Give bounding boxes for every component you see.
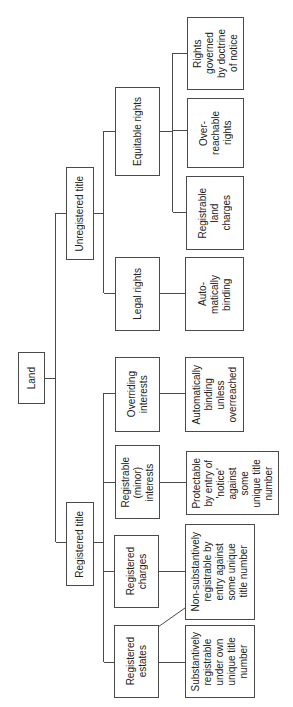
node-label: Unregistered title bbox=[74, 176, 86, 252]
node-land: Land bbox=[18, 352, 45, 404]
node-label: Substantively registrable under own uniq… bbox=[190, 632, 250, 691]
node-label: Overriding interests bbox=[126, 371, 150, 417]
node-label: Legal rights bbox=[132, 268, 144, 320]
node-equitable-rights: Equitable rights bbox=[115, 87, 160, 176]
node-automatically-binding: Auto- matically binding bbox=[185, 257, 244, 331]
node-protectable-by-notice: Protectable by entry of 'notice' against… bbox=[186, 451, 279, 515]
node-overriding-interests: Overriding interests bbox=[115, 357, 160, 432]
node-label: Automatically binding unless overreached bbox=[191, 365, 239, 424]
node-label: Equitable rights bbox=[132, 97, 144, 166]
node-label: Registered title bbox=[74, 511, 86, 578]
node-registrable-minor-interests: Registrable (minor) interests bbox=[115, 445, 160, 519]
node-label: Registered charges bbox=[125, 547, 149, 595]
node-doctrine-of-notice: Rights governed by doctrine of notice bbox=[187, 17, 244, 90]
node-label: Protectable by entry of 'notice' against… bbox=[191, 458, 275, 509]
node-label: Over- reachable rights bbox=[198, 111, 234, 155]
node-binding-unless-overreached: Automatically binding unless overreached bbox=[185, 357, 244, 432]
node-label: Auto- matically binding bbox=[197, 275, 233, 314]
node-substantively-registrable: Substantively registrable under own uniq… bbox=[185, 625, 255, 698]
node-non-substantively-registrable: Non-substantively registrable by entry a… bbox=[185, 524, 255, 620]
node-unregistered-title: Unregistered title bbox=[66, 167, 94, 260]
node-registrable-land-charges: Registrable land charges bbox=[186, 176, 244, 250]
node-label: Rights governed by doctrine of notice bbox=[192, 29, 240, 78]
node-legal-rights: Legal rights bbox=[115, 257, 160, 331]
node-label: Non-substantively registrable by entry a… bbox=[190, 532, 250, 611]
node-label: Registered estates bbox=[125, 637, 149, 685]
node-overreachable-rights: Over- reachable rights bbox=[187, 98, 244, 168]
node-label: Registrable land charges bbox=[197, 188, 233, 239]
node-registered-estates: Registered estates bbox=[114, 625, 159, 698]
node-label: Land bbox=[26, 367, 38, 389]
land-law-tree-diagram: Land Unregistered title Registered title… bbox=[0, 0, 293, 707]
node-registered-charges: Registered charges bbox=[114, 535, 159, 608]
node-label: Registrable (minor) interests bbox=[120, 457, 156, 508]
node-registered-title: Registered title bbox=[66, 502, 94, 586]
